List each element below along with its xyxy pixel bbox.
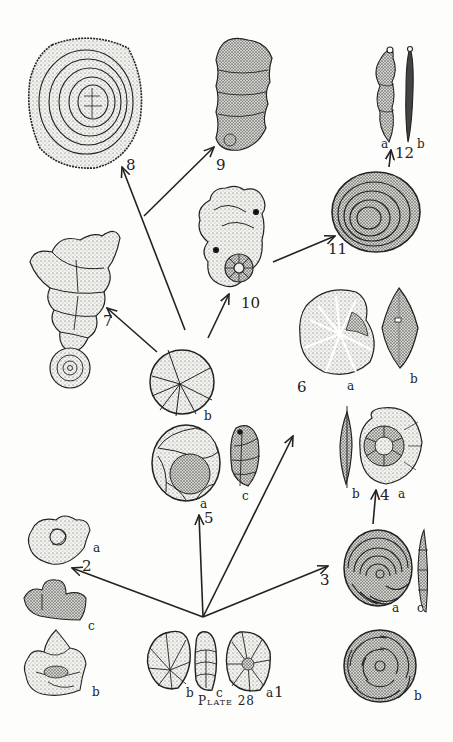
label-3c: c: [417, 601, 424, 615]
specimen-10: [199, 186, 265, 286]
label-9: 9: [216, 156, 226, 174]
specimen-6a: [300, 290, 375, 375]
label-5b: b: [204, 409, 212, 423]
plate-caption: Plate 28: [0, 694, 453, 708]
label-4b: b: [352, 487, 360, 501]
label-5: 5: [204, 509, 214, 527]
label-2a: a: [93, 541, 100, 555]
label-2c: c: [88, 619, 95, 633]
arrow-3-to-4: [373, 490, 376, 524]
label-11: 11: [328, 240, 347, 258]
arrow-5-to-10: [208, 294, 229, 338]
arrow-5-to-8: [122, 167, 185, 330]
specimen-12: [376, 47, 413, 143]
specimen-3: [344, 530, 428, 702]
specimen-4a: [360, 408, 422, 484]
specimen-2a: [28, 516, 90, 564]
specimen-7: [30, 231, 120, 388]
specimen-5b: [150, 350, 214, 416]
specimen-4: [340, 406, 422, 488]
specimen-3b: [344, 630, 416, 702]
label-7: 7: [103, 312, 113, 330]
specimen-3c: [418, 530, 428, 612]
specimen-9: [216, 38, 272, 150]
specimen-2b: [24, 630, 86, 695]
specimen-12a: [376, 47, 395, 142]
label-12: 12: [395, 144, 414, 162]
label-3a: a: [392, 601, 399, 615]
label-4: 4: [380, 486, 390, 504]
specimen-6: [300, 288, 418, 374]
specimen-12b: [406, 47, 413, 143]
label-12a: a: [381, 137, 388, 151]
label-12b: b: [417, 137, 425, 151]
specimen-4b: [340, 406, 352, 488]
specimen-1b: [147, 631, 190, 690]
label-3: 3: [320, 571, 330, 589]
specimen-5: [150, 350, 260, 501]
specimen-1a: [226, 632, 270, 692]
arrow-11-to-12: [389, 150, 391, 167]
plate-drawing: 8 9 a b 12 11 10 7 6 a b b c a 5 b 4 a 3…: [0, 0, 453, 742]
specimen-6b: [382, 288, 418, 368]
label-6b: b: [410, 372, 418, 386]
specimen-2c: [24, 580, 86, 620]
label-5c: c: [242, 489, 249, 503]
label-4a: a: [398, 487, 405, 501]
label-2: 2: [82, 557, 92, 575]
label-8: 8: [126, 156, 136, 174]
arrow-10-to-11: [273, 236, 335, 262]
label-6: 6: [297, 378, 307, 396]
specimen-2: [24, 516, 90, 695]
label-6a: a: [347, 379, 354, 393]
arrow-1-to-2: [72, 568, 203, 617]
specimen-5a: [152, 425, 220, 501]
arrow-1-to-5: [199, 515, 203, 617]
specimen-8: [29, 38, 142, 168]
specimen-3a: [344, 530, 412, 606]
plate: 8 9 a b 12 11 10 7 6 a b b c a 5 b 4 a 3…: [0, 0, 453, 742]
arrow-5-to-7: [107, 308, 157, 352]
arrow-1-to-3: [203, 566, 328, 617]
specimen-5c: [231, 426, 260, 486]
specimen-1c: [195, 632, 217, 690]
label-10: 10: [241, 294, 260, 312]
specimen-1: [147, 631, 270, 692]
